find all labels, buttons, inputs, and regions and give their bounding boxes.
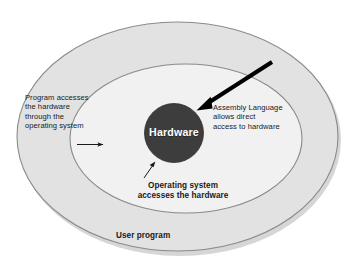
- annotation-assembly-language: Assembly Language allows direct access t…: [213, 103, 328, 131]
- annotation-operating-system: Operating system accesses the hardware: [118, 181, 248, 201]
- user-program-layer-label: User program: [116, 231, 216, 241]
- annotation-program-accesses: Program accesses the hardware through th…: [25, 93, 130, 130]
- hardware-core-label: Hardware: [145, 126, 203, 139]
- layered-architecture-diagram: Program accesses the hardware through th…: [0, 0, 352, 269]
